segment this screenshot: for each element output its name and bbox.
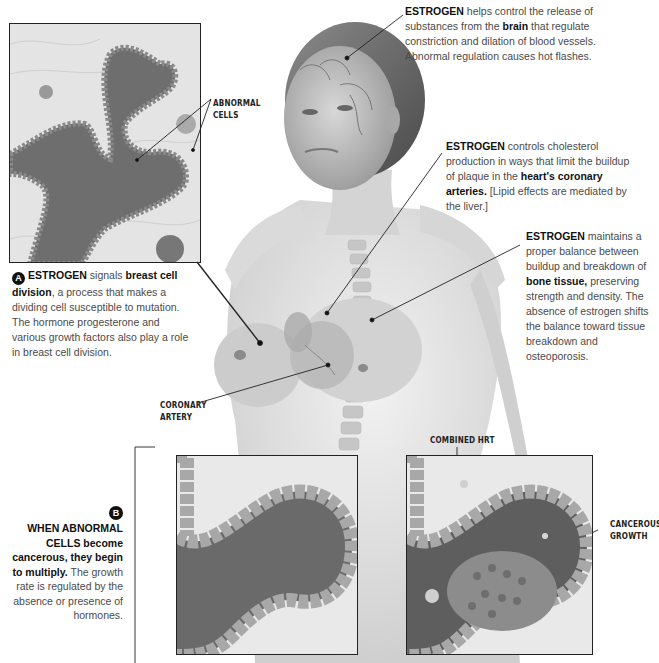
marker-b-icon: B	[109, 506, 123, 520]
label-coronary-artery: CORONARY ARTERY	[160, 399, 203, 423]
caption-growth: B WHEN ABNORMAL CELLS become cancerous, …	[6, 500, 123, 623]
caption-brain: ESTROGEN helps control the release of su…	[405, 4, 605, 64]
label-cancerous-growth: CANCEROUS GROWTH	[610, 518, 653, 542]
cancerous-growth-panel	[406, 455, 593, 655]
marker-a-icon: A	[12, 272, 25, 285]
duct-cross-section	[177, 456, 358, 655]
abnormal-cells-panel	[176, 455, 358, 655]
label-combined-hrt: COMBINED HRT	[430, 434, 498, 446]
tumor-cross-section	[407, 456, 593, 655]
caption-heart: ESTROGEN controls cholesterol production…	[446, 139, 636, 214]
label-abnormal-cells: ABNORMAL CELLS	[213, 97, 256, 121]
caption-breast: AESTROGEN signals breast cell division, …	[12, 268, 192, 360]
breast-duct-illustration	[10, 24, 201, 263]
caption-brain-lead: ESTROGEN	[405, 5, 464, 17]
breast-tissue-panel	[9, 23, 201, 263]
caption-bone: ESTROGEN maintains a proper balance betw…	[526, 229, 658, 364]
